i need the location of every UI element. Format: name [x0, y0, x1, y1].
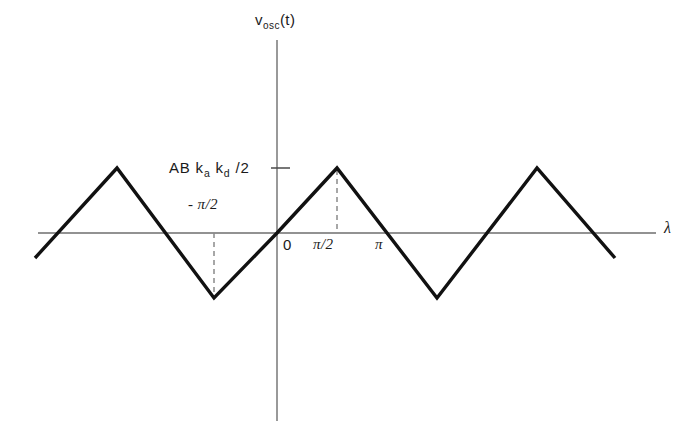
x-axis-label: λ: [664, 219, 671, 237]
amplitude-axis-label: AB ka kd /2: [169, 159, 250, 179]
tick-label-origin: 0: [283, 236, 292, 253]
oscillator-waveform-figure: vosc(t) AB ka kd /2 - π/2 0 π/2 π λ: [0, 0, 691, 446]
amplitude-label-subscript-a: a: [204, 167, 211, 179]
y-axis-label-symbol: v: [255, 11, 263, 28]
y-axis-label-subscript: osc: [263, 20, 280, 31]
tick-label-neg-half-pi: - π/2: [188, 196, 218, 213]
y-axis-label-argument: (t): [280, 11, 295, 28]
amplitude-label-middle: k: [211, 159, 224, 176]
tick-label-half-pi: π/2: [313, 236, 333, 253]
amplitude-label-suffix: /2: [230, 159, 249, 176]
y-axis-label: vosc(t): [255, 11, 295, 31]
waveform-plot-svg: [0, 0, 691, 446]
tick-label-pi: π: [375, 236, 383, 253]
amplitude-label-prefix: AB k: [169, 159, 204, 176]
